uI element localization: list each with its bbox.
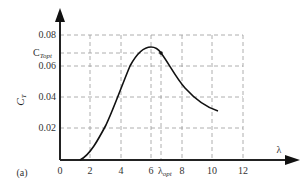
x-tick-2: 2 [88,165,93,176]
x-tick-10: 10 [207,165,217,176]
x-tick-6: 6 [149,165,154,176]
optimal-point [159,51,163,55]
grid [60,35,243,160]
axes [55,8,300,165]
panel-label: (a) [16,167,27,179]
y-tick-0.04: 0.04 [39,91,57,102]
y-axis-arrow-icon [55,8,65,22]
y-tick-0.08: 0.08 [39,29,57,40]
x-tick-8: 8 [180,165,185,176]
y-axis-label: CT [14,93,28,105]
ct-lambda-chart: 0.02 0.04 0.06 0.08 CTopt 0 2 4 6 λopt 8… [0,0,307,189]
x-axis-arrow-icon [285,155,300,165]
y-tick-0.06: 0.06 [39,60,57,71]
svg-text:CT: CT [14,93,28,105]
x-tick-4: 4 [119,165,124,176]
x-tick-0: 0 [58,165,63,176]
y-tick-0.02: 0.02 [39,122,57,133]
ctopt-label: CTopt [33,47,53,60]
x-axis-label: λ [277,144,282,155]
x-tick-12: 12 [238,165,248,176]
ct-curve [80,47,218,160]
lambda-opt-label: λopt [158,165,173,178]
